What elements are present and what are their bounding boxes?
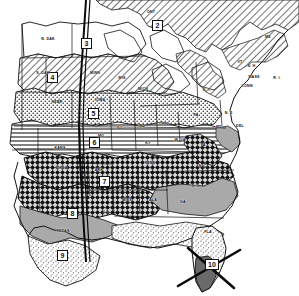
region-label-ala: ALA bbox=[149, 198, 157, 203]
region-label-mo: MO bbox=[98, 134, 104, 139]
region-label-conn: CONN bbox=[241, 84, 252, 89]
region-label-w-va: W. VA bbox=[175, 138, 186, 143]
region-label-nh: N. H. bbox=[247, 64, 256, 69]
region-label-ky: KY bbox=[145, 141, 150, 146]
map-graphic bbox=[0, 0, 299, 296]
region-label-ont: ONT bbox=[147, 10, 155, 15]
region-label-tenn: TENN bbox=[145, 161, 156, 166]
region-label-pa: PA bbox=[193, 113, 198, 118]
region-label-fla: FLA bbox=[204, 230, 212, 235]
region-label-del: DEL bbox=[236, 124, 244, 129]
region-label-miss: MISS bbox=[122, 198, 132, 203]
zone-marker-2: 2 bbox=[152, 20, 163, 31]
region-label-s-dak: S. DAK bbox=[36, 71, 49, 76]
region-label-mass: MASS bbox=[248, 75, 259, 80]
region-label-vt: VT bbox=[238, 60, 243, 65]
region-label-ill: ILL bbox=[117, 126, 123, 131]
region-label-kans: KANS bbox=[55, 146, 66, 151]
zone-marker-8: 8 bbox=[67, 208, 78, 219]
zone-marker-5: 5 bbox=[88, 108, 99, 119]
region-label-minn: MINN bbox=[90, 71, 100, 76]
region-label-ri: R. I. bbox=[273, 76, 281, 81]
region-label-ohio: OHIO bbox=[159, 122, 169, 127]
region-label-nc: N. C. bbox=[198, 164, 207, 169]
region-label-ind: IND bbox=[139, 124, 146, 129]
region-label-ga: GA bbox=[180, 200, 186, 205]
region-label-ark: ARK bbox=[95, 168, 103, 173]
zone-marker-3: 3 bbox=[81, 38, 92, 49]
region-label-ny: N. Y. bbox=[203, 88, 212, 93]
zone-marker-7: 7 bbox=[99, 176, 110, 187]
region-label-va: VA bbox=[200, 143, 205, 148]
region-label-me: ME bbox=[265, 35, 271, 40]
zone-marker-9: 9 bbox=[57, 250, 68, 261]
region-label-sc: S. C. bbox=[192, 184, 201, 189]
region-label-iowa: IOWA bbox=[95, 98, 105, 103]
region-label-nebr: NEBR bbox=[52, 100, 63, 105]
zone-marker-10: 10 bbox=[205, 259, 219, 270]
zone-band-group bbox=[10, 0, 299, 292]
region-label-wis: WIS bbox=[118, 76, 125, 81]
region-label-okla: OKLA bbox=[57, 166, 68, 171]
region-label-n-dak: N. DAK bbox=[41, 37, 55, 42]
zone-marker-6: 6 bbox=[89, 137, 100, 148]
hardiness-zone-map: 2 3 4 5 6 7 8 9 10 ONT N. DAK S. DAK MIN… bbox=[0, 0, 299, 296]
region-label-la: LA bbox=[103, 210, 108, 215]
region-label-texas: TEXAS bbox=[57, 229, 70, 234]
region-label-nj: N. J. bbox=[225, 111, 234, 116]
region-label-md: MD bbox=[216, 125, 222, 130]
region-label-mich: MICH bbox=[138, 87, 148, 92]
